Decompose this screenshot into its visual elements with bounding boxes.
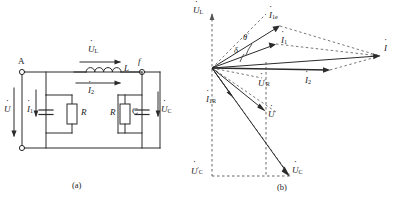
figure-root: A f U I1 I2 UL L R R C UC (a) UL U′C I1e…	[0, 0, 402, 203]
panel-b-caption: (b)	[277, 182, 287, 192]
source-arrow-head	[11, 131, 16, 138]
i1-arrow-head	[34, 111, 39, 118]
resistor-right-label: R	[110, 108, 116, 117]
terminal-f-label: f	[138, 57, 141, 66]
capacitor-right-label: C	[132, 107, 138, 116]
phasor-label-i1e: I1e	[269, 11, 278, 20]
i2-arrow-head	[115, 81, 122, 86]
current-i2-label: I2	[88, 86, 94, 95]
phasor-vertical-axis-arrow	[210, 13, 215, 20]
angle-arc-delta	[240, 54, 244, 62]
vector-i-head	[373, 53, 381, 59]
construction-line-i1e-to-i	[280, 26, 380, 56]
construction-line-lower-fan	[212, 68, 262, 78]
axis-label-uc-prime: U′C	[191, 166, 203, 176]
vector-u-head	[257, 103, 266, 111]
axis-label-ul: UL	[193, 6, 203, 15]
inductor-coil	[86, 68, 121, 72]
terminal-a-return-node	[19, 145, 24, 150]
phasor-label-i: I	[384, 44, 387, 53]
vector-i1e-head	[272, 26, 280, 33]
construction-line-i1-to-i	[276, 44, 380, 56]
phasor-label-ur-prime: U′R	[258, 78, 270, 88]
resistor-right-body	[120, 104, 130, 124]
current-i1-label: I1	[27, 105, 33, 114]
phasor-label-u: U	[268, 110, 275, 119]
terminal-a-label: A	[18, 57, 25, 66]
inductor-label: L	[124, 64, 129, 73]
angle-label-delta: δ	[234, 45, 238, 55]
vector-uc-shaft	[212, 68, 288, 174]
vector-i2-head	[323, 67, 331, 73]
construction-line-upper	[212, 14, 266, 68]
phasor-diagram-group	[210, 13, 381, 176]
terminal-a-node	[19, 69, 24, 74]
resistor-left-label: R	[81, 108, 87, 117]
phasor-label-i2: I2	[305, 76, 311, 85]
vector-i-shaft	[212, 56, 378, 68]
phasor-label-i1: I1	[281, 36, 287, 45]
resistor-left-body	[67, 104, 77, 124]
source-voltage-label: U	[4, 105, 11, 114]
vector-uc-head	[282, 167, 290, 177]
phasor-label-i1r: I1R	[206, 95, 216, 104]
capacitor-voltage-label: UC	[161, 105, 172, 114]
vector-i1-head	[269, 43, 276, 49]
angle-label-theta-prime: θ′	[243, 31, 249, 42]
phasor-label-uc: UC	[292, 166, 303, 175]
vector-i2-shaft	[212, 68, 328, 70]
panel-a-caption: (a)	[72, 180, 81, 190]
inductor-voltage-label: UL	[88, 45, 98, 54]
construction-line-u	[212, 68, 276, 112]
ul-arrow-head	[115, 60, 122, 65]
